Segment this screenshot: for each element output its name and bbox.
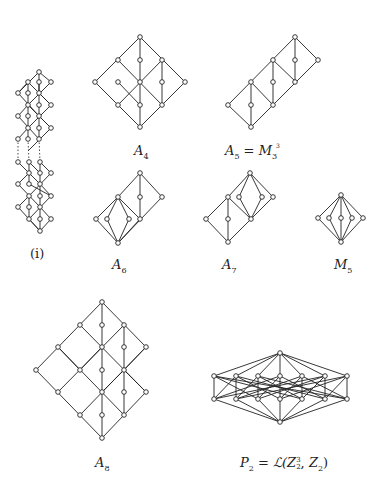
a4-lattice-diagram [93, 35, 188, 130]
a7-lattice-diagram [204, 171, 276, 245]
chain-nodes [16, 70, 54, 234]
m5-label: M5 [334, 257, 352, 275]
a5-label: A5 = M33 [225, 143, 281, 161]
a4-label: A4 [134, 143, 148, 161]
chain-label: (i) [30, 246, 44, 261]
m5-lattice-diagram [316, 193, 366, 245]
p2-label: P2 = ℒ(Z32, Z2) [240, 455, 328, 473]
p2-lattice-diagram [212, 351, 350, 425]
a8-lattice-diagram [34, 300, 149, 441]
a5-lattice-diagram [226, 35, 321, 130]
lattice-diagrams-canvas [0, 0, 384, 492]
a6-label: A6 [112, 257, 126, 275]
a6-lattice-diagram [94, 171, 165, 246]
a7-label: A7 [222, 257, 236, 275]
a8-label: A8 [95, 455, 109, 473]
chain-lattice-diagram [16, 70, 54, 234]
